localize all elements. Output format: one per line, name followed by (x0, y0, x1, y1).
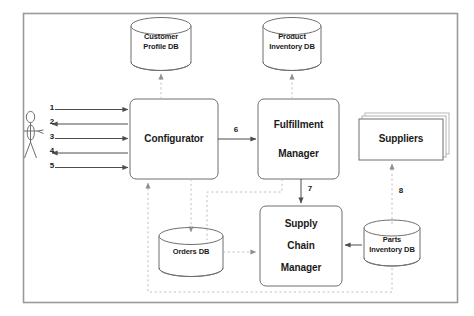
node-supply-chain-manager (260, 206, 342, 286)
node-suppliers-stack (359, 113, 449, 160)
node-fulfillment-manager (258, 99, 339, 179)
datastore-customer-profile-db (131, 18, 191, 71)
diagram-svg (0, 0, 474, 316)
datastore-parts-inventory-db (364, 220, 420, 266)
datastore-orders-db (159, 228, 223, 277)
datastore-product-inventory-db (263, 18, 321, 71)
diagram-canvas: 1 2 3 4 5 6 7 8 Configurator Fulfillment… (0, 0, 474, 316)
node-configurator (130, 99, 218, 179)
